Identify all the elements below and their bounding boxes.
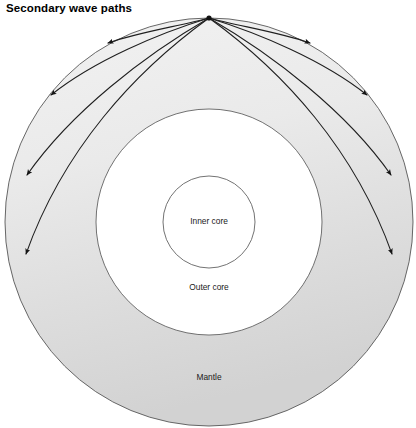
earth-cross-section: Inner core Outer core Mantle — [0, 0, 416, 428]
outer-core-label: Outer core — [189, 282, 229, 292]
inner-core-label: Inner core — [190, 216, 228, 226]
figure-title: Secondary wave paths — [6, 2, 132, 14]
mantle-label: Mantle — [196, 372, 221, 382]
earthquake-focus-point — [206, 15, 211, 20]
secondary-wave-paths-figure: Secondary wave paths — [0, 0, 416, 428]
